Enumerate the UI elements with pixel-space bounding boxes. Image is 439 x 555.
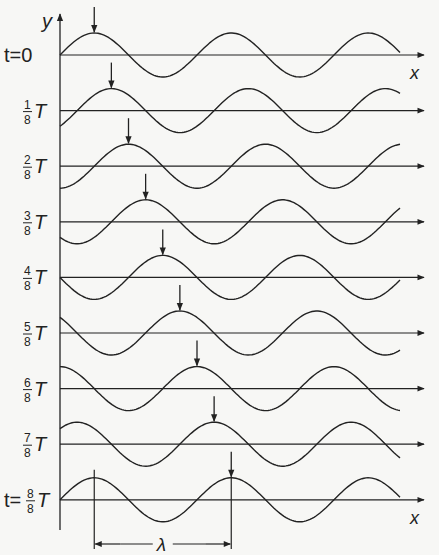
wave-diagram: yt=0x18T28T38T48T58T68T78Tt=88Txλ: [0, 0, 439, 555]
wavelength-label: λ: [156, 534, 166, 555]
fraction-denominator-row-7: 8: [24, 446, 31, 460]
period-symbol-row-7: T: [34, 433, 48, 455]
x-axis-label-row-0: x: [409, 63, 420, 83]
fraction-denominator-row-6: 8: [24, 391, 31, 405]
wave-snapshots-figure: yt=0x18T28T38T48T58T68T78Tt=88Txλ: [0, 0, 439, 555]
x-axis-label-row-8: x: [409, 508, 420, 528]
period-symbol-row-5: T: [34, 322, 48, 344]
fraction-numerator-row-1: 1: [24, 98, 31, 112]
y-axis-label: y: [40, 10, 53, 32]
period-symbol-row-1: T: [34, 100, 48, 122]
fraction-numerator-row-7: 7: [24, 431, 31, 445]
fraction-numerator-row-6: 6: [24, 376, 31, 390]
fraction-numerator-row-5: 5: [24, 320, 31, 334]
fraction-denominator-row-5: 8: [24, 335, 31, 349]
fraction-denominator-row-3: 8: [24, 224, 31, 238]
period-symbol-row-8: T: [37, 489, 51, 511]
fraction-denominator-row-1: 8: [24, 113, 31, 127]
fraction-denominator-row-2: 8: [24, 168, 31, 182]
fraction-numerator-row-4: 4: [24, 264, 31, 278]
period-symbol-row-2: T: [34, 155, 48, 177]
period-symbol-row-3: T: [34, 211, 48, 233]
time-label-row-0: t=0: [4, 44, 32, 66]
fraction-numerator-row-3: 3: [24, 209, 31, 223]
fraction-numerator-row-2: 2: [24, 153, 31, 167]
fraction-numerator-row-8: 8: [27, 487, 34, 501]
time-prefix-row-8: t=: [4, 489, 21, 511]
fraction-denominator-row-4: 8: [24, 279, 31, 293]
period-symbol-row-6: T: [34, 378, 48, 400]
period-symbol-row-4: T: [34, 266, 48, 288]
fraction-denominator-row-8: 8: [27, 502, 34, 516]
